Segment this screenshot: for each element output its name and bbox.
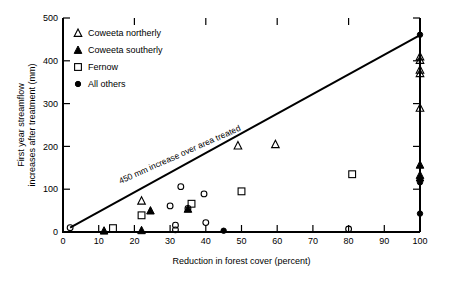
scatter-chart-figure: 01020304050607080901000100200300400500 C… xyxy=(0,0,453,284)
chart-svg: 01020304050607080901000100200300400500 C… xyxy=(0,0,453,284)
annotations-group: 450 mm increase over area treated xyxy=(117,123,242,186)
legend-label: Fernow xyxy=(88,62,119,72)
marker-open-square xyxy=(349,171,356,178)
marker-open-square xyxy=(238,188,245,195)
marker-filled-triangle xyxy=(147,207,155,214)
legend-label: Coweeta northerly xyxy=(88,28,162,38)
legend-item: Coweeta southerly xyxy=(74,45,163,55)
marker-filled-triangle xyxy=(416,161,424,168)
marker-filled-triangle xyxy=(100,227,108,234)
marker-filled-circle xyxy=(417,211,422,216)
x-tick-label: 20 xyxy=(129,236,139,246)
x-tick-label: 70 xyxy=(308,236,318,246)
x-axis-title: Reduction in forest cover (percent) xyxy=(172,256,310,266)
legend-item: Fernow xyxy=(75,62,119,72)
legend-item: Coweeta northerly xyxy=(74,28,161,38)
x-tick-label: 30 xyxy=(165,236,175,246)
series-coweeta-northerly xyxy=(138,53,424,205)
marker-open-triangle xyxy=(272,140,280,147)
marker-open-circle xyxy=(178,184,184,190)
y-tick-label: 500 xyxy=(43,13,58,23)
marker-open-square xyxy=(138,212,145,219)
y-tick-label: 0 xyxy=(53,227,58,237)
chart-legend: Coweeta northerlyCoweeta southerlyFernow… xyxy=(74,28,163,89)
legend-label: All others xyxy=(88,79,126,89)
marker-filled-circle xyxy=(221,228,226,233)
y-axis-title-line1: First year streamflow xyxy=(16,83,26,167)
marker-open-triangle xyxy=(138,197,146,204)
marker-open-circle xyxy=(167,203,173,209)
marker-open-square xyxy=(75,64,82,71)
reference-line-group xyxy=(70,35,420,228)
x-tick-label: 40 xyxy=(201,236,211,246)
y-tick-label: 200 xyxy=(43,142,58,152)
legend-item: All others xyxy=(75,79,126,89)
x-tick-label: 90 xyxy=(379,236,389,246)
y-tick-label: 100 xyxy=(43,184,58,194)
y-tick-label: 300 xyxy=(43,99,58,109)
marker-open-square xyxy=(110,225,117,232)
marker-filled-triangle xyxy=(138,226,146,233)
series-all-others-filled xyxy=(221,32,423,233)
marker-filled-triangle xyxy=(74,46,82,53)
x-tick-label: 10 xyxy=(94,236,104,246)
x-tick-label: 100 xyxy=(412,236,427,246)
x-tick-label: 80 xyxy=(344,236,354,246)
reference-line-label: 450 mm increase over area treated xyxy=(117,123,242,186)
legend-label: Coweeta southerly xyxy=(88,45,163,55)
y-axis-title-line2: increases after treatment (mm) xyxy=(27,63,37,186)
marker-open-circle xyxy=(201,191,207,197)
series-fernow xyxy=(110,171,356,232)
marker-open-triangle xyxy=(234,142,242,149)
marker-open-circle xyxy=(203,220,209,226)
marker-filled-circle xyxy=(75,81,80,86)
450-mm-reference-line xyxy=(70,35,420,228)
x-tick-label: 60 xyxy=(272,236,282,246)
x-tick-label: 50 xyxy=(236,236,246,246)
marker-filled-circle xyxy=(417,180,422,185)
marker-open-triangle xyxy=(74,29,82,36)
y-tick-label: 400 xyxy=(43,56,58,66)
x-tick-label: 0 xyxy=(60,236,65,246)
marker-filled-circle xyxy=(417,32,422,37)
